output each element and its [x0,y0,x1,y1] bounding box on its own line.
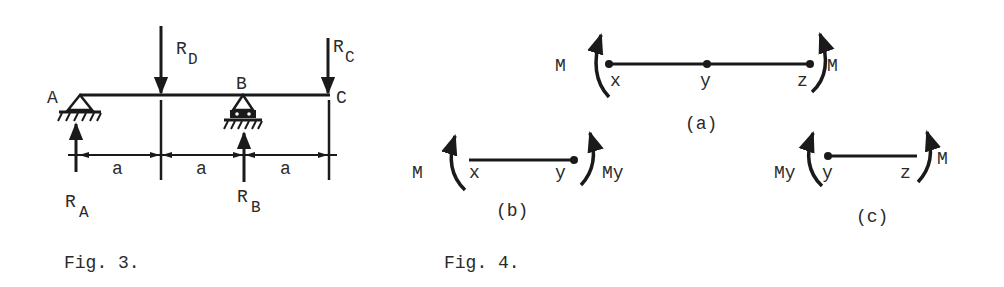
roller-support-b [224,95,262,129]
node-y [824,152,832,160]
moment-label-right: M [827,56,838,76]
diagram-canvas: A B C R D R C R A R B a a a Fig. 3. [0,0,1004,287]
subfigure-label-b: (b) [496,201,528,221]
point-label-a: A [47,88,58,108]
svg-text:A: A [79,204,89,222]
moment-label-left: M [555,56,566,76]
node-label-y: y [555,163,566,183]
node-label-x: x [469,163,480,183]
moment-arrow-right [812,34,825,92]
svg-text:R: R [176,39,187,59]
force-label-rc: R C [333,37,355,67]
node-z [806,60,814,68]
moment-arrow-right [581,133,593,185]
span-label: a [280,159,291,179]
force-label-rb: R B [237,187,261,217]
figure-4: M M x y z (a) M My x y (b) My M y [412,34,948,273]
moment-label-right: M [937,149,948,169]
node-label-x: x [610,71,621,91]
subfigure-c: My M y z (c) [774,132,948,227]
subfigure-b: M My x y (b) [412,133,624,221]
point-label-b: B [236,74,247,94]
moment-label-left: My [774,163,796,183]
moment-label-left: M [412,163,423,183]
node-y [570,156,578,164]
moment-arrow-right [918,132,930,182]
moment-label-right: My [602,163,624,183]
svg-text:R: R [65,192,76,212]
subfigure-label-a: (a) [685,114,717,134]
node-label-z: z [797,71,808,91]
moment-arrow-left [451,136,465,190]
node-label-z: z [900,163,911,183]
node-x [605,60,613,68]
svg-text:R: R [237,187,248,207]
point-label-c: C [336,88,347,108]
span-label: a [196,159,207,179]
svg-text:B: B [251,199,261,217]
subfigure-a: M M x y z (a) [555,34,838,134]
pin-support-a [58,95,101,121]
node-y [703,60,711,68]
svg-text:R: R [333,37,344,57]
svg-text:D: D [188,51,198,69]
force-label-rd: R D [176,39,198,69]
span-label: a [112,159,123,179]
moment-arrow-left [809,133,822,186]
svg-text:C: C [345,49,355,67]
force-label-ra: R A [65,192,89,222]
subfigure-label-c: (c) [856,207,888,227]
figure-3-caption: Fig. 3. [64,253,140,273]
figure-4-caption: Fig. 4. [444,253,520,273]
node-label-y: y [700,71,711,91]
figure-3: A B C R D R C R A R B a a a Fig. 3. [47,26,355,273]
node-label-y: y [822,163,833,183]
